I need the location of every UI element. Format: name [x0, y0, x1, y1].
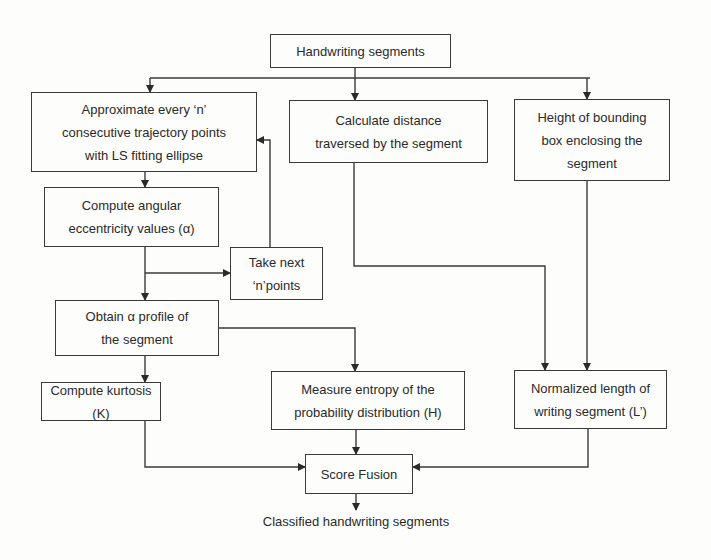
node-label-line: traversed by the segment: [315, 132, 462, 155]
node-label-line: Compute angular: [82, 194, 182, 217]
node-label-line: consecutive trajectory points: [62, 121, 226, 144]
node-normalized-length: Normalized length of writing segment (L’…: [514, 370, 667, 429]
node-label-line: eccentricity values (α): [69, 217, 195, 240]
node-label: Handwriting segments: [296, 40, 425, 63]
node-label-line: Take next: [249, 251, 305, 274]
node-label-line: Calculate distance: [335, 109, 441, 132]
node-bounding-box-height: Height of bounding box enclosing the seg…: [514, 99, 670, 181]
node-label-line: segment: [567, 152, 617, 175]
node-take-next-points: Take next ‘n’points: [230, 247, 323, 300]
node-label-line: Approximate every ‘n’: [82, 98, 207, 121]
node-label-line: Obtain α profile of: [86, 305, 189, 328]
node-label-line: box enclosing the: [541, 129, 642, 152]
node-label-line: probability distribution (H): [294, 401, 441, 424]
node-handwriting-segments: Handwriting segments: [270, 34, 451, 68]
node-label-line: Height of bounding: [537, 106, 646, 129]
node-measure-entropy: Measure entropy of the probability distr…: [271, 371, 465, 430]
node-label-line: Normalized length of: [531, 377, 650, 400]
node-label-line: with LS fitting ellipse: [85, 144, 203, 167]
node-angular-eccentricity: Compute angular eccentricity values (α): [44, 187, 219, 247]
node-label: Score Fusion: [321, 463, 398, 486]
node-compute-kurtosis: Compute kurtosis (K): [41, 382, 161, 421]
node-score-fusion: Score Fusion: [305, 454, 413, 494]
output-label: Classified handwriting segments: [236, 514, 476, 529]
node-approximate-ellipse: Approximate every ‘n’ consecutive trajec…: [31, 92, 257, 172]
node-label-line: Measure entropy of the: [301, 378, 435, 401]
node-label-line: the segment: [101, 328, 173, 351]
node-alpha-profile: Obtain α profile of the segment: [55, 300, 219, 356]
node-label-line: ‘n’points: [253, 274, 301, 297]
node-calculate-distance: Calculate distance traversed by the segm…: [289, 100, 488, 163]
node-label: Compute kurtosis (K): [46, 379, 156, 425]
node-label-line: writing segment (L’): [534, 400, 647, 423]
